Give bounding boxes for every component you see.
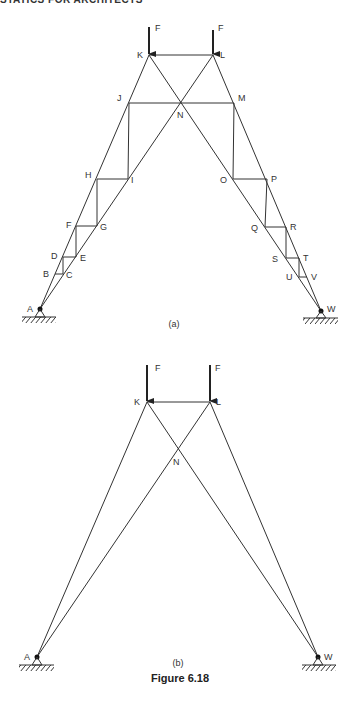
load-label: F bbox=[218, 23, 224, 33]
svg-text:H: H bbox=[85, 170, 92, 180]
svg-text:C: C bbox=[66, 270, 73, 280]
svg-text:J: J bbox=[117, 93, 122, 103]
svg-text:M: M bbox=[238, 93, 246, 103]
caption-b: (b) bbox=[173, 658, 184, 668]
svg-text:S: S bbox=[272, 254, 278, 264]
svg-text:A: A bbox=[24, 652, 30, 662]
svg-text:T: T bbox=[303, 253, 309, 263]
load-arrows-a: F F bbox=[149, 23, 224, 54]
svg-text:F: F bbox=[66, 220, 72, 230]
svg-text:V: V bbox=[311, 272, 317, 282]
load-label: F bbox=[155, 23, 161, 33]
truss-figure: F F K L J M N H I O P F G Q R D E S T B … bbox=[0, 0, 358, 704]
svg-text:A: A bbox=[27, 304, 33, 314]
svg-text:I: I bbox=[131, 175, 134, 185]
svg-text:G: G bbox=[100, 222, 107, 232]
svg-text:P: P bbox=[271, 174, 277, 184]
truss-a bbox=[40, 55, 321, 311]
svg-text:U: U bbox=[286, 272, 293, 282]
svg-text:N: N bbox=[173, 457, 180, 467]
load-label: F bbox=[155, 363, 161, 373]
svg-text:K: K bbox=[137, 50, 143, 60]
truss-b bbox=[37, 402, 318, 657]
node-labels-a: K L J M N H I O P F G Q R D E S T B C U … bbox=[27, 50, 336, 314]
node-labels-b: K L N A W bbox=[24, 397, 333, 662]
svg-text:B: B bbox=[43, 269, 49, 279]
caption-a: (a) bbox=[169, 319, 180, 329]
figure-title: Figure 6.18 bbox=[151, 672, 209, 684]
svg-text:O: O bbox=[220, 175, 227, 185]
svg-text:L: L bbox=[216, 397, 221, 407]
load-label: F bbox=[215, 363, 221, 373]
svg-text:K: K bbox=[134, 397, 140, 407]
svg-text:R: R bbox=[290, 222, 297, 232]
svg-text:E: E bbox=[80, 253, 86, 263]
svg-text:Q: Q bbox=[251, 223, 258, 233]
svg-text:W: W bbox=[324, 652, 333, 662]
svg-text:D: D bbox=[51, 251, 58, 261]
svg-text:N: N bbox=[177, 110, 184, 120]
svg-text:L: L bbox=[220, 50, 225, 60]
load-arrows-b: F F bbox=[147, 363, 221, 401]
svg-text:W: W bbox=[327, 304, 336, 314]
